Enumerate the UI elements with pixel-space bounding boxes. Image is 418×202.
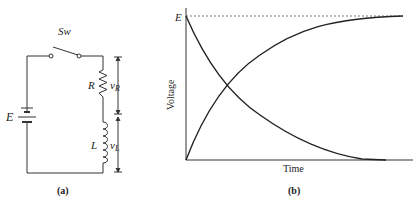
rising-curve	[186, 16, 403, 160]
voltage-chart	[186, 8, 413, 160]
inductor-label: L	[90, 139, 97, 151]
figure: Sw E R L vR vL (a) E Voltage Time (b)	[0, 0, 418, 202]
wire-top-right	[81, 56, 103, 70]
wire-top-left	[27, 56, 49, 112]
source-label: E	[5, 110, 14, 124]
x-axis-label: Time	[283, 163, 304, 174]
resistor-icon	[99, 70, 107, 97]
inductor-icon	[103, 122, 108, 163]
circuit-diagram	[18, 47, 122, 173]
e-tick-label: E	[174, 11, 182, 23]
resistor-label: R	[87, 79, 95, 91]
caption-b: (b)	[288, 185, 300, 197]
y-axis-label: Voltage	[165, 79, 176, 110]
caption-a: (a)	[57, 185, 69, 197]
decaying-curve	[186, 16, 386, 160]
switch-blade	[53, 47, 78, 55]
switch-label: Sw	[58, 25, 72, 37]
switch-terminal-left	[49, 54, 53, 58]
